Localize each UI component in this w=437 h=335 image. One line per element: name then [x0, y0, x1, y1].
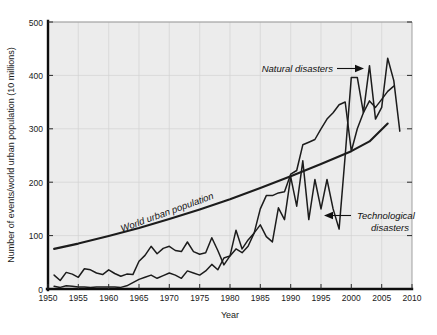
x-axis-title: Year	[221, 310, 239, 320]
x-tick-label-1970: 1970	[160, 293, 179, 303]
chart-figure: 500 400 300 200 100 0 1950 1955 1960 196…	[0, 0, 437, 335]
x-tick-label-1980: 1980	[221, 293, 240, 303]
x-tick-label-1985: 1985	[251, 293, 270, 303]
x-tick-label-1955: 1955	[69, 293, 88, 303]
y-tick-label-300: 300	[29, 124, 43, 134]
x-tick-label-1975: 1975	[190, 293, 209, 303]
y-tick-label-100: 100	[29, 231, 43, 241]
y-tick-label-200: 200	[29, 178, 43, 188]
annotation-technological-label-line2: disasters	[371, 222, 409, 233]
x-tick-label-1960: 1960	[99, 293, 118, 303]
y-tick-label-400: 400	[29, 71, 43, 81]
x-tick-label-2000: 2000	[342, 293, 361, 303]
x-tick-label-1950: 1950	[39, 293, 58, 303]
x-tick-label-1995: 1995	[312, 293, 331, 303]
annotation-technological-label-line1: Technological	[357, 210, 416, 221]
x-tick-label-2010: 2010	[403, 293, 422, 303]
x-tick-label-1990: 1990	[281, 293, 300, 303]
y-axis-title: Number of events/world urban population …	[6, 47, 16, 263]
x-tick-label-1965: 1965	[130, 293, 149, 303]
x-tick-label-2005: 2005	[372, 293, 391, 303]
chart-canvas: 500 400 300 200 100 0 1950 1955 1960 196…	[0, 0, 437, 335]
annotation-natural-disasters-label: Natural disasters	[262, 63, 334, 74]
y-tick-label-500: 500	[29, 18, 43, 28]
